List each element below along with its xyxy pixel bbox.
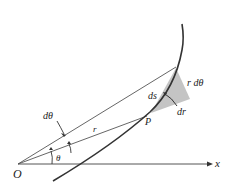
ray-r: [18, 116, 147, 164]
label-dtheta: dθ: [43, 111, 53, 121]
label-origin: O: [13, 168, 22, 180]
ray-r-plus-dr: [18, 67, 176, 164]
label-point-p: P: [145, 117, 151, 127]
dtheta-leader: [57, 121, 64, 134]
label-r: r: [93, 125, 97, 134]
polar-arc-length-diagram: O x P r θ dθ ds dr r dθ: [0, 0, 233, 189]
theta-arc: [51, 151, 52, 164]
theta-arrow-icon: [49, 147, 53, 150]
diagram-canvas: [0, 0, 233, 189]
label-theta: θ: [56, 154, 60, 163]
label-r-dtheta: r dθ: [187, 78, 203, 88]
x-axis-arrow-icon: [207, 162, 213, 167]
dtheta-small-arrow-icon: [67, 141, 71, 144]
dtheta-small-arc: [69, 144, 71, 153]
label-dr: dr: [177, 107, 186, 117]
label-x-axis: x: [215, 158, 220, 169]
label-ds: ds: [148, 91, 157, 101]
